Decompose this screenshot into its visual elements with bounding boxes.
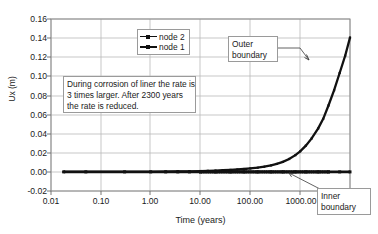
x-tick-label: 100.00 [224,196,276,206]
annotation-note-line-2: 3 times larger. After 2300 years [67,90,192,101]
x-tick-label: 1.00 [124,196,176,206]
y-tick-label: 0.16 [7,15,47,24]
y-tick-label: 0.14 [7,34,47,43]
chart-figure: 0.16 0.14 0.12 0.10 0.08 0.06 0.04 0.02 … [0,0,378,234]
annotation-inner-boundary-line-1: Inner [321,191,367,202]
annotation-outer-boundary: Outer boundary [228,36,278,62]
legend-label-node-2: node 2 [157,32,185,42]
annotation-inner-boundary-line-2: boundary [321,202,367,213]
inner-boundary-leader [289,173,320,189]
x-tick-label: 10.00 [174,196,226,206]
annotation-outer-boundary-line-2: boundary [232,50,274,61]
legend-marker-node-1-icon [140,42,157,52]
legend-item-node-2: node 2 [140,32,185,42]
x-tick-label: 0.10 [75,196,127,206]
y-axis-title: Ux (m) [7,59,17,119]
annotation-inner-boundary: Inner boundary [317,188,371,215]
legend: node 2 node 1 [137,29,190,55]
legend-label-node-1: node 1 [157,42,185,52]
annotation-outer-boundary-line-1: Outer [232,39,274,50]
x-axis-title: Time (years) [51,215,350,225]
y-tick-label: 0.02 [7,149,47,158]
y-axis-ticks [47,19,51,191]
legend-marker-node-2-icon [140,32,157,42]
annotation-note-line-1: During corrosion of liner the rate is [67,79,192,90]
x-tick-label: 0.01 [25,196,77,206]
outer-boundary-leader [278,48,309,60]
y-tick-label: -0.02 [7,187,47,196]
y-tick-label: 0.04 [7,130,47,139]
x-axis-ticks [51,191,350,195]
y-tick-label: 0.00 [7,168,47,177]
annotation-note: During corrosion of liner the rate is 3 … [63,76,196,113]
legend-item-node-1: node 1 [140,42,185,52]
annotation-note-line-3: the rate is reduced. [67,101,192,112]
